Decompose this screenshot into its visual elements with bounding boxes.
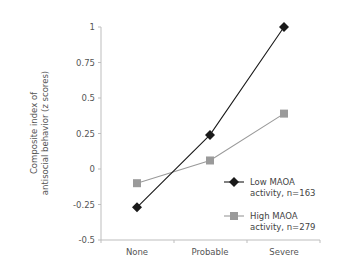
y-tick-label: 0.5 xyxy=(81,93,95,103)
square-marker xyxy=(133,179,141,187)
y-tick-label: -0.5 xyxy=(78,235,95,245)
line-chart: 10.750.50.250-0.25-0.5 NoneProbableSever… xyxy=(0,0,339,278)
legend-label: Low MAOA xyxy=(250,177,295,187)
legend-label: activity, n=163 xyxy=(250,188,315,198)
x-tick-label: Severe xyxy=(269,247,298,257)
legend-label: activity, n=279 xyxy=(250,222,315,232)
square-marker xyxy=(230,212,238,220)
series-square xyxy=(133,110,288,188)
diamond-marker xyxy=(279,22,289,32)
legend-label: High MAOA xyxy=(250,211,298,221)
legend-item: Low MAOAactivity, n=163 xyxy=(224,177,315,198)
square-marker xyxy=(280,110,288,118)
series-line xyxy=(137,114,284,184)
y-axis-title-line: antisocial behavior (z scores) xyxy=(40,71,50,195)
legend-item: High MAOAactivity, n=279 xyxy=(224,211,315,232)
x-tick-label: Probable xyxy=(191,247,228,257)
square-marker xyxy=(206,156,214,164)
y-axis-title: Composite index ofantisocial behavior (z… xyxy=(29,71,50,195)
y-tick-label: 1 xyxy=(90,22,95,32)
x-axis: NoneProbableSevere xyxy=(101,240,320,257)
y-tick-label: 0.75 xyxy=(76,58,95,68)
y-axis-title-line: Composite index of xyxy=(29,91,39,174)
y-tick-label: 0 xyxy=(90,164,95,174)
legend: Low MAOAactivity, n=163High MAOAactivity… xyxy=(224,177,315,232)
diamond-marker xyxy=(229,177,239,187)
x-tick-label: None xyxy=(126,247,148,257)
y-tick-label: 0.25 xyxy=(76,129,95,139)
y-axis: 10.750.50.250-0.25-0.5 xyxy=(73,22,101,245)
y-tick-label: -0.25 xyxy=(73,200,95,210)
